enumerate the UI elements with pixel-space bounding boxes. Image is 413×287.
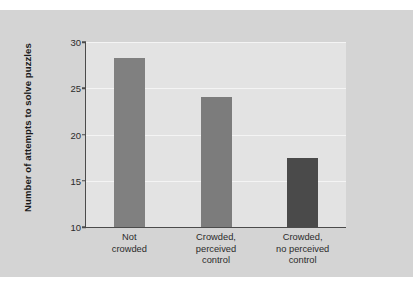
y-tick-mark [82,88,86,90]
y-tick-mark [82,180,86,182]
x-tick-label-line: Crowded, [196,232,236,244]
x-tick-label-line: perceived [196,244,236,256]
x-tick-label-line: Not [112,232,147,244]
bar-chart-figure: Number of attempts to solve puzzles 1015… [0,0,413,287]
x-tick-label-line: control [276,255,329,267]
y-tick-label: 15 [70,175,81,186]
bar [287,158,318,227]
x-tick-label: Notcrowded [112,232,147,255]
y-tick-label: 25 [70,83,81,94]
gridline [86,42,346,43]
x-tick-label: Crowded,perceivedcontrol [196,232,236,267]
y-tick-label: 30 [70,37,81,48]
x-tick-label: Crowded,no perceivedcontrol [276,232,329,267]
y-tick-mark [82,226,86,228]
chart-panel: Number of attempts to solve puzzles 1015… [0,10,413,277]
x-tick-label-line: Crowded, [276,232,329,244]
y-tick-mark [82,134,86,136]
bar [201,97,232,227]
y-tick-mark [82,41,86,43]
y-tick-label: 10 [70,222,81,233]
bar [114,58,145,227]
y-tick-label: 20 [70,129,81,140]
x-tick-label-line: control [196,255,236,267]
y-axis-title: Number of attempts to solve puzzles [22,23,33,233]
x-tick-label-line: crowded [112,244,147,256]
x-tick-label-line: no perceived [276,244,329,256]
plot-area: 1015202530 NotcrowdedCrowded,perceivedco… [85,42,346,228]
